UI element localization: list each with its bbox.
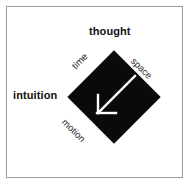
southwest-arrow-icon bbox=[91, 74, 137, 120]
label-thought: thought bbox=[89, 26, 131, 37]
diagram-canvas: thought intuition time space motion bbox=[0, 0, 191, 186]
label-intuition: intuition bbox=[13, 90, 57, 101]
